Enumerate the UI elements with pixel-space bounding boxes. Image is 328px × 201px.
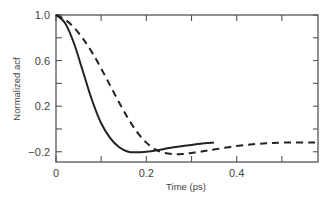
plot-frame [56,15,318,162]
dashed-curve [56,15,318,154]
solid-curve [56,15,214,152]
x-tick-label: 0 [53,167,59,179]
y-tick-label: 0.6 [35,55,50,67]
tick-labels: 00.20.41.00.60.2−0.2 [28,9,244,179]
y-tick-label: 1.0 [35,9,50,21]
x-tick-label: 0.2 [139,167,154,179]
axis-ticks [56,15,318,162]
y-tick-label: 0.2 [35,100,50,112]
x-tick-label: 0.4 [229,167,244,179]
x-axis-title: Time (ps) [166,181,206,192]
data-curves [56,15,318,154]
acf-chart: 00.20.41.00.60.2−0.2 Time (ps) Normalize… [0,0,328,201]
y-tick-label: −0.2 [28,146,50,158]
y-axis-title: Normalized acf [11,57,22,121]
